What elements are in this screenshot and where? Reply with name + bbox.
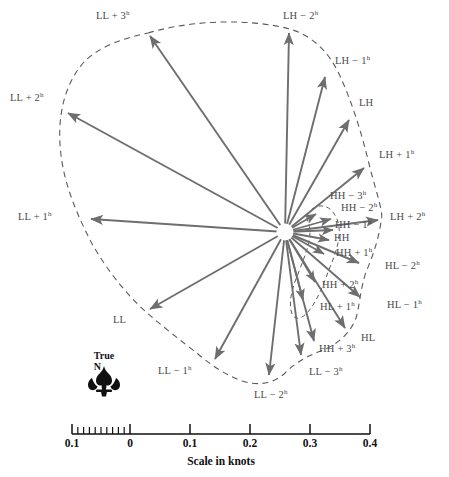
scale-minor-ticks bbox=[78, 427, 124, 434]
vector-label-ll-plus-2h: LL + 2h bbox=[10, 93, 44, 104]
scale-bar bbox=[72, 424, 370, 434]
vector-ll-plus-3h bbox=[150, 36, 285, 232]
scale-tick-label-1: 0 bbox=[127, 437, 133, 449]
scale-tick-label-2: 0.1 bbox=[183, 437, 197, 449]
vector-label-hh-plus-2h: HH + 2h bbox=[322, 280, 359, 291]
vector-label-ll-plus-3h: LL + 3h bbox=[96, 11, 130, 22]
vector-label-ll: LL bbox=[113, 315, 126, 326]
scale-caption: Scale in knots bbox=[187, 455, 255, 467]
vector-label-hh-minus-3h: HH − 3h bbox=[330, 191, 367, 202]
vector-ll-minus-2h bbox=[269, 232, 285, 375]
compass-label-line2: N bbox=[94, 362, 114, 373]
vector-lh bbox=[285, 120, 349, 232]
vector-lh-minus-1h bbox=[285, 77, 325, 232]
vector-label-lh-minus-2h: LH − 2h bbox=[283, 11, 318, 22]
vector-label-ll-plus-1h: LL + 1h bbox=[18, 212, 52, 223]
vector-label-hl: HL bbox=[361, 333, 375, 344]
vector-ll-plus-2h bbox=[68, 113, 285, 232]
scale-tick-label-4: 0.3 bbox=[303, 437, 317, 449]
vector-label-ll-minus-1h: LL − 1h bbox=[158, 366, 192, 377]
vector-label-hl-plus-1h: HL + 1h bbox=[320, 302, 355, 313]
current-rose-figure: LL + 3h LH − 2h LH − 1h LH LH + 1h LH + … bbox=[0, 0, 449, 477]
vector-hl-plus-1h bbox=[285, 232, 303, 300]
rose-vector-canvas bbox=[0, 0, 449, 477]
vector-label-lh-plus-1h: LH + 1h bbox=[379, 150, 414, 161]
vector-label-lh-minus-1h: LH − 1h bbox=[335, 56, 370, 67]
compass-label: True N bbox=[94, 351, 114, 372]
vector-label-hh: HH bbox=[334, 233, 350, 244]
vector-label-lh-plus-2h: LH + 2h bbox=[390, 212, 425, 223]
vector-label-hh-minus-2h: HH − 2h bbox=[341, 203, 378, 214]
origin-hub bbox=[277, 224, 294, 241]
vector-label-ll-minus-3h: LL − 3h bbox=[309, 367, 343, 378]
vector-ll-plus-1h bbox=[91, 219, 285, 232]
vector-label-ll-minus-2h: LL − 2h bbox=[254, 390, 288, 401]
vector-label-hh-plus-3h: HH + 3h bbox=[319, 344, 356, 355]
compass-label-line1: True bbox=[94, 351, 114, 362]
vector-label-hl-minus-1h: HL − 1h bbox=[387, 300, 422, 311]
vector-lh-minus-2h bbox=[285, 33, 289, 232]
scale-tick-label-0: 0.1 bbox=[65, 437, 79, 449]
vector-label-lh: LH bbox=[359, 98, 373, 109]
scale-tick-label-3: 0.2 bbox=[243, 437, 257, 449]
scale-tick-label-5: 0.4 bbox=[363, 437, 377, 449]
vector-label-hh-minus-1h: HH − 1h bbox=[335, 220, 372, 231]
vector-label-hh-plus-1h: HH + 1h bbox=[336, 248, 373, 259]
current-envelope-outer bbox=[60, 22, 382, 384]
vector-ll-minus-3h bbox=[285, 232, 301, 355]
vector-label-hl-minus-2h: HL − 2h bbox=[385, 261, 420, 272]
